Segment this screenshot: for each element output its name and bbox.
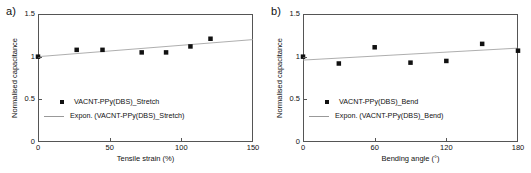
panel-b-y-axis-title-text: Normalised capacitance — [276, 38, 284, 118]
panel-b-point-2 — [372, 45, 377, 50]
panel-a: a) Normalised capacitance — [0, 0, 265, 173]
panel-b-x-axis-title: Bending angle (°) — [303, 155, 518, 163]
panel-b-xtick-label-180: 180 — [512, 144, 525, 152]
panel-b-trendline — [303, 48, 518, 60]
panel-a-xtick-label-50: 50 — [105, 144, 113, 152]
panel-a-data-layer — [38, 14, 253, 142]
panel-b-point-1 — [337, 61, 342, 66]
panel-a-x-axis-title: Tensile strain (%) — [38, 155, 253, 163]
panel-a-xtick-label-150: 150 — [247, 144, 260, 152]
panel-a-point-1 — [74, 48, 79, 53]
panel-a-xtick-label-0: 0 — [36, 144, 40, 152]
panel-b-ytick-label-0: 0 — [296, 138, 300, 146]
panel-b-xtick-mark-120 — [446, 138, 447, 142]
panel-b-point-5 — [480, 42, 485, 47]
panel-a-ytick-mark-1 — [38, 57, 42, 58]
panel-a-ytick-label-15: 1.5 — [25, 10, 35, 18]
panel-a-point-4 — [164, 50, 169, 55]
panel-a-y-axis-title: Normalised capacitance — [10, 14, 20, 142]
panel-b-xtick-mark-60 — [375, 138, 376, 142]
panel-b-point-6 — [516, 48, 521, 53]
panel-a-xtick-mark-100 — [181, 138, 182, 142]
panel-a-ytick-mark-05 — [38, 99, 42, 100]
panel-b: b) Normalised capacitance — [265, 0, 530, 173]
panel-a-ytick-label-05: 0.5 — [25, 96, 35, 104]
panel-a-point-3 — [139, 50, 144, 55]
panel-b-point-3 — [408, 60, 413, 65]
panel-a-point-6 — [208, 37, 213, 42]
panel-b-ytick-label-15: 1.5 — [290, 10, 300, 18]
panel-b-xtick-label-60: 60 — [370, 144, 378, 152]
panel-b-ytick-label-1: 1 — [296, 53, 300, 61]
panel-b-y-axis-title: Normalised capacitance — [275, 14, 285, 142]
panel-a-point-5 — [188, 44, 193, 49]
panel-a-ytick-label-0: 0 — [31, 138, 35, 146]
panel-b-point-4 — [444, 59, 449, 64]
figure-container: a) Normalised capacitance — [0, 0, 531, 173]
panel-a-xtick-label-100: 100 — [175, 144, 188, 152]
panel-a-y-axis-title-text: Normalised capacitance — [11, 38, 19, 118]
panel-b-data-layer — [303, 14, 518, 142]
panel-b-plot-area: VACNT-PPy(DBS)_Bend Expon. (VACNT-PPy(DB… — [303, 14, 518, 142]
panel-b-xtick-label-120: 120 — [440, 144, 453, 152]
panel-a-plot-area: VACNT-PPy(DBS)_Stretch Expon. (VACNT-PPy… — [38, 14, 253, 142]
panel-a-xtick-mark-50 — [110, 138, 111, 142]
panel-b-xtick-label-0: 0 — [301, 144, 305, 152]
panel-a-ytick-label-1: 1 — [31, 53, 35, 61]
panel-b-ytick-mark-05 — [303, 99, 307, 100]
panel-a-trendline — [38, 40, 253, 57]
panel-b-ytick-label-05: 0.5 — [290, 96, 300, 104]
panel-b-ytick-mark-1 — [303, 57, 307, 58]
panel-a-point-2 — [100, 48, 105, 53]
